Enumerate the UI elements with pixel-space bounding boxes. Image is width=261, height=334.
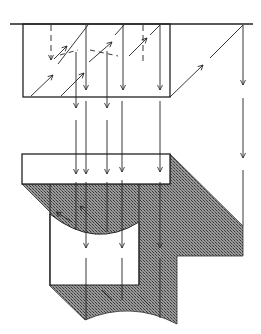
lower-slab xyxy=(22,154,170,184)
upper-block xyxy=(23,24,170,97)
diagram-canvas xyxy=(0,0,261,334)
